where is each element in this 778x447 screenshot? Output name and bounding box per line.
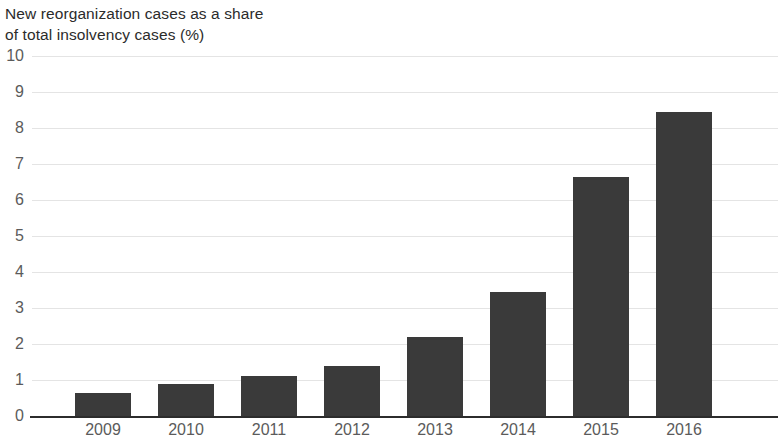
chart-figure: New reorganization cases as a share of t…: [0, 0, 778, 447]
x-tick-label: 2016: [643, 421, 726, 439]
bar-2009: [75, 393, 131, 416]
bar-2013: [407, 337, 463, 416]
x-tick-label: 2010: [145, 421, 228, 439]
bar-2016: [656, 112, 712, 416]
bar-2014: [490, 292, 546, 416]
x-tick-label: 2015: [560, 421, 643, 439]
bar-2010: [158, 384, 214, 416]
x-tick-label: 2013: [394, 421, 477, 439]
bars-group: [0, 0, 778, 447]
bar-2011: [241, 376, 297, 416]
bar-2015: [573, 177, 629, 416]
x-tick-label: 2014: [477, 421, 560, 439]
x-tick-label: 2012: [311, 421, 394, 439]
x-tick-label: 2009: [62, 421, 145, 439]
x-tick-label: 2011: [228, 421, 311, 439]
bar-2012: [324, 366, 380, 416]
